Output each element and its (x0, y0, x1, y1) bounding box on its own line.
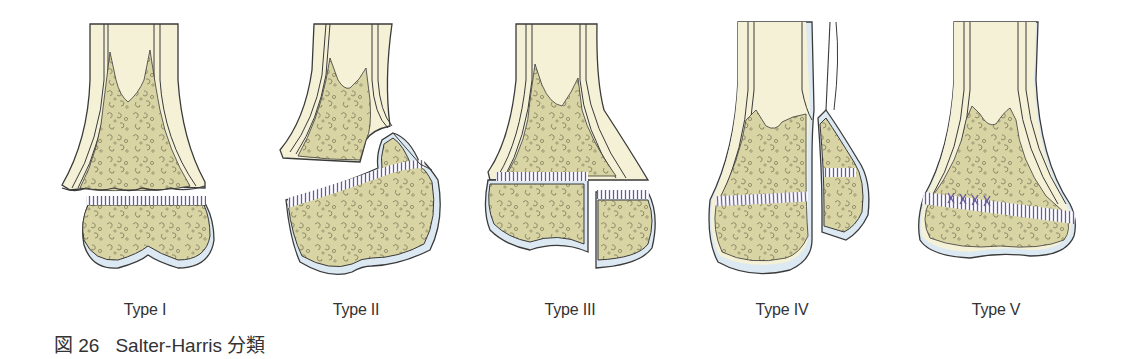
type-1-illustration (62, 24, 214, 268)
type-5-illustration (919, 22, 1076, 258)
type-2-label: Type II (333, 301, 380, 319)
figure-title: Salter-Harris 分類 (115, 335, 265, 356)
salter-harris-figure: Type I Type II Type III Type IV Type V 図… (0, 0, 1136, 359)
type-4-illustration (709, 22, 869, 274)
type-4-label: Type IV (756, 301, 809, 319)
figure-caption: 図 26Salter-Harris 分類 (54, 330, 265, 357)
type-2-illustration (280, 24, 440, 274)
type-3-label: Type III (545, 301, 596, 319)
type-1-label: Type I (124, 301, 166, 319)
type-3-illustration (485, 24, 655, 268)
fracture-illustrations (0, 0, 1136, 300)
figure-number: 図 26 (54, 335, 99, 356)
type-5-label: Type V (972, 301, 1021, 319)
